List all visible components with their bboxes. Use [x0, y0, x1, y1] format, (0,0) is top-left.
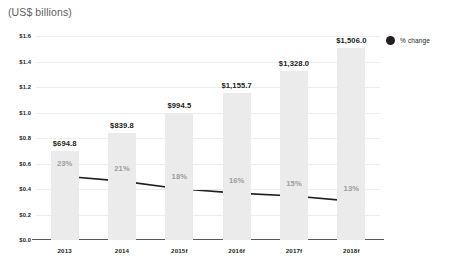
y-axis-tick-label: $1.2 — [19, 84, 31, 90]
pct-change-label: 18% — [172, 172, 188, 181]
x-axis-baseline — [32, 239, 384, 240]
x-axis-tick-label: 2013 — [57, 247, 71, 254]
bar-value-label: $1,506.0 — [336, 36, 366, 45]
pct-change-label: 16% — [229, 176, 245, 185]
gridline — [36, 36, 380, 37]
legend: % change — [386, 36, 430, 45]
x-axis-tick-label: 2016f — [228, 247, 245, 254]
y-axis-tick-label: $1.0 — [19, 110, 31, 116]
bar-value-label: $994.5 — [167, 101, 191, 110]
bar-value-label: $1,328.0 — [279, 59, 309, 68]
pct-change-label: 21% — [114, 164, 130, 173]
gridline — [36, 113, 380, 114]
bar — [108, 133, 136, 240]
y-axis-tick-label: $0.2 — [19, 212, 31, 218]
gridline — [36, 138, 380, 139]
bar-value-label: $839.8 — [110, 121, 134, 130]
x-axis-tick-label: 2017f — [286, 247, 303, 254]
gridline — [36, 164, 380, 165]
pct-change-label: 23% — [57, 159, 73, 168]
chart-container: (US$ billions) % change $1.6$1.4$1.2$1.0… — [0, 0, 452, 272]
gridline — [36, 189, 380, 190]
x-axis-tick-label: 2018f — [343, 247, 360, 254]
gridline — [36, 215, 380, 216]
bar — [223, 93, 251, 240]
x-axis-tick-label: 2015f — [171, 247, 188, 254]
x-axis-tick-label: 2014 — [115, 247, 129, 254]
y-axis-unit-label: (US$ billions) — [8, 6, 72, 18]
bar-value-label: $1,155.7 — [221, 81, 251, 90]
y-axis-tick-label: $0.8 — [19, 135, 31, 141]
y-axis-tick-label: $1.6 — [19, 33, 31, 39]
y-axis-tick-label: $0.4 — [19, 186, 31, 192]
gridline — [36, 87, 380, 88]
plot-area: $1.6$1.4$1.2$1.0$0.8$0.6$0.4$0.2$0.0$694… — [36, 36, 380, 240]
filled-circle-icon — [386, 36, 395, 45]
y-axis-tick-label: $1.4 — [19, 59, 31, 65]
y-axis-tick-label: $0.0 — [19, 237, 31, 243]
pct-change-label: 13% — [344, 184, 360, 193]
gridline — [36, 62, 380, 63]
legend-label-pct-change: % change — [400, 37, 430, 44]
bar — [280, 71, 308, 240]
bar-value-label: $694.8 — [53, 139, 77, 148]
pct-change-label: 15% — [286, 179, 302, 188]
bar — [337, 48, 365, 240]
y-axis-tick-label: $0.6 — [19, 161, 31, 167]
